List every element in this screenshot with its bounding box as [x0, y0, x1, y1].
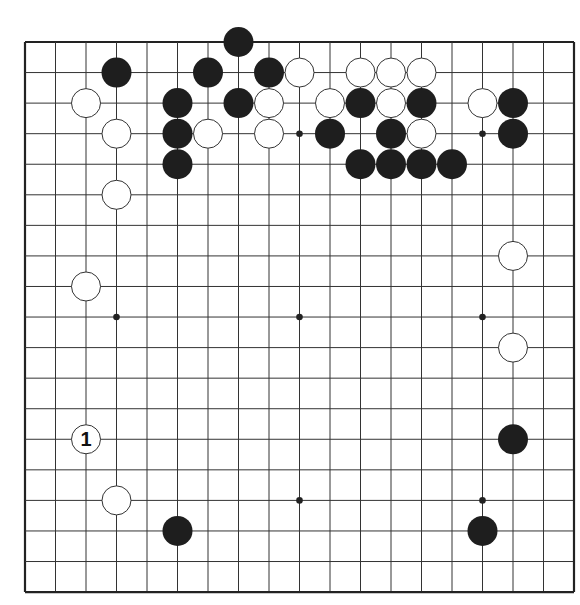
white-stone [407, 58, 436, 87]
black-stone-icon [437, 149, 467, 179]
white-stone [499, 241, 528, 270]
black-stone-icon [376, 119, 406, 149]
black-stone [224, 27, 254, 57]
black-stone [498, 424, 528, 454]
black-stone-icon [346, 149, 376, 179]
white-stone [255, 89, 284, 118]
black-stone [376, 119, 406, 149]
white-stone-icon [499, 333, 528, 362]
white-stone [468, 89, 497, 118]
white-stone-icon [316, 89, 345, 118]
black-stone-icon [498, 424, 528, 454]
black-stone-icon [163, 88, 193, 118]
white-stone [194, 119, 223, 148]
white-stone-icon [255, 89, 284, 118]
black-stone [346, 149, 376, 179]
white-stone-icon [377, 58, 406, 87]
star-point [296, 130, 303, 137]
black-stone-icon [224, 27, 254, 57]
black-stone [315, 119, 345, 149]
white-stone [346, 58, 375, 87]
black-stone-icon [163, 149, 193, 179]
white-stone [377, 89, 406, 118]
black-stone-icon [468, 516, 498, 546]
white-stone-icon [499, 241, 528, 270]
go-board: 1 [0, 0, 580, 605]
black-stone-icon [346, 88, 376, 118]
white-stone-icon [377, 89, 406, 118]
black-stone [102, 58, 132, 88]
black-stone [193, 58, 223, 88]
black-stone-icon [254, 58, 284, 88]
black-stone-icon [163, 516, 193, 546]
black-stone [254, 58, 284, 88]
black-stone [163, 119, 193, 149]
black-stone [437, 149, 467, 179]
black-stone-icon [193, 58, 223, 88]
white-stone-icon [255, 119, 284, 148]
white-stone [102, 486, 131, 515]
white-stone-icon [72, 272, 101, 301]
star-point [479, 130, 486, 137]
black-stone-icon [407, 88, 437, 118]
move-number-label: 1 [80, 428, 91, 450]
white-stone-icon [194, 119, 223, 148]
black-stone [407, 149, 437, 179]
star-point [479, 497, 486, 504]
white-stone [407, 119, 436, 148]
white-stone-icon [72, 89, 101, 118]
black-stone-icon [163, 119, 193, 149]
white-stone-icon [102, 180, 131, 209]
black-stone [468, 516, 498, 546]
black-stone [498, 119, 528, 149]
star-point [113, 314, 120, 321]
white-stone-icon [346, 58, 375, 87]
black-stone [163, 88, 193, 118]
white-stone-icon [407, 119, 436, 148]
white-stone [255, 119, 284, 148]
star-point [296, 497, 303, 504]
black-stone [407, 88, 437, 118]
white-stone [285, 58, 314, 87]
white-stone-icon [468, 89, 497, 118]
white-stone: 1 [72, 425, 101, 454]
black-stone [163, 516, 193, 546]
black-stone-icon [407, 149, 437, 179]
black-stone-icon [498, 119, 528, 149]
black-stone [376, 149, 406, 179]
white-stone [102, 180, 131, 209]
white-stone-icon [407, 58, 436, 87]
white-stone-icon [285, 58, 314, 87]
black-stone [498, 88, 528, 118]
black-stone [346, 88, 376, 118]
black-stone-icon [498, 88, 528, 118]
black-stone-icon [102, 58, 132, 88]
black-stone [224, 88, 254, 118]
white-stone-icon [102, 486, 131, 515]
white-stone [316, 89, 345, 118]
star-point [479, 314, 486, 321]
black-stone-icon [376, 149, 406, 179]
white-stone [102, 119, 131, 148]
white-stone-icon [102, 119, 131, 148]
white-stone [377, 58, 406, 87]
black-stone-icon [224, 88, 254, 118]
black-stone-icon [315, 119, 345, 149]
white-stone [499, 333, 528, 362]
black-stone [163, 149, 193, 179]
white-stone [72, 272, 101, 301]
white-stone [72, 89, 101, 118]
star-point [296, 314, 303, 321]
